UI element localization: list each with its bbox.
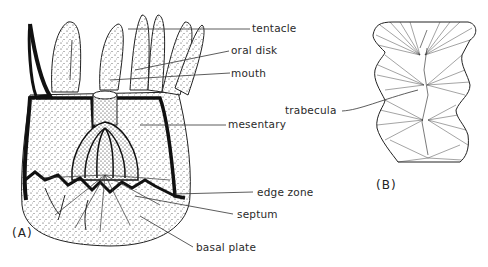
label-oral-disk: oral disk: [231, 44, 277, 56]
label-tentacle: tentacle: [252, 22, 297, 34]
label-mouth: mouth: [231, 67, 266, 79]
figure-drawing: [0, 0, 488, 267]
panel-label-a: (A): [12, 226, 33, 240]
panel-label-b: (B): [376, 178, 397, 192]
coral-polyp-drawing: [22, 15, 204, 246]
label-mesentary: mesentary: [228, 118, 286, 130]
trabecula-drawing: [373, 22, 476, 162]
label-septum: septum: [237, 208, 278, 220]
label-trabecula: trabecula: [285, 104, 337, 116]
label-edge-zone: edge zone: [257, 186, 313, 198]
label-basal-plate: basal plate: [196, 241, 256, 253]
